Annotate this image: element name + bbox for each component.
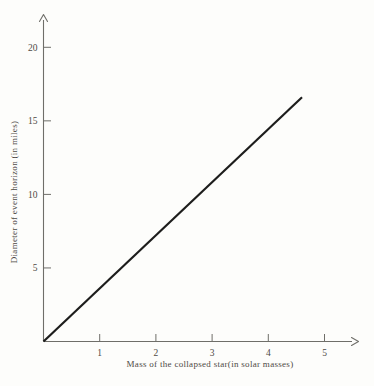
series-line-event-horizon-diameter-vs-mass <box>44 97 303 341</box>
x-tick-label-1: 1 <box>97 348 102 358</box>
chart-figure: 123455101520 Mass of the collapsed star(… <box>0 0 374 386</box>
y-tick-label-15: 15 <box>28 116 38 126</box>
ticks-layer: 123455101520 <box>28 43 327 358</box>
series-layer <box>44 97 303 341</box>
x-tick-label-4: 4 <box>266 348 271 358</box>
y-tick-label-10: 10 <box>28 190 38 200</box>
x-tick-label-3: 3 <box>210 348 215 358</box>
x-tick-label-2: 2 <box>154 348 159 358</box>
chart-svg: 123455101520 Mass of the collapsed star(… <box>0 0 374 386</box>
y-axis-label: Diameter of event horizon (in miles) <box>9 121 19 264</box>
y-tick-label-20: 20 <box>28 43 38 53</box>
y-tick-label-5: 5 <box>33 263 38 273</box>
x-tick-label-5: 5 <box>322 348 327 358</box>
x-axis-arrow-icon <box>352 338 359 346</box>
x-axis-label: Mass of the collapsed star(in solar mass… <box>127 359 294 369</box>
